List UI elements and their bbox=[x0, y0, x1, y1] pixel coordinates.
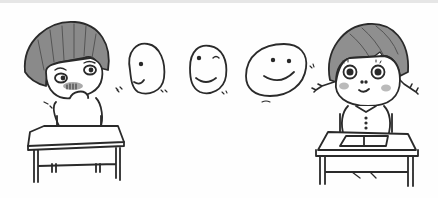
girl-pigtail-right bbox=[400, 80, 418, 94]
boy-character bbox=[25, 22, 122, 130]
boy-desk bbox=[28, 126, 124, 182]
girl-character bbox=[312, 24, 418, 136]
illustration bbox=[0, 0, 438, 198]
girl-blush bbox=[339, 83, 349, 90]
girl-face bbox=[336, 56, 400, 106]
face-2 bbox=[190, 46, 227, 94]
face-1 bbox=[117, 44, 167, 94]
girl-blush bbox=[381, 85, 391, 92]
girl-pigtail-left bbox=[312, 82, 334, 92]
face-3 bbox=[246, 44, 314, 102]
book bbox=[340, 136, 388, 146]
drawing bbox=[0, 0, 438, 198]
girl-desk bbox=[316, 132, 418, 186]
